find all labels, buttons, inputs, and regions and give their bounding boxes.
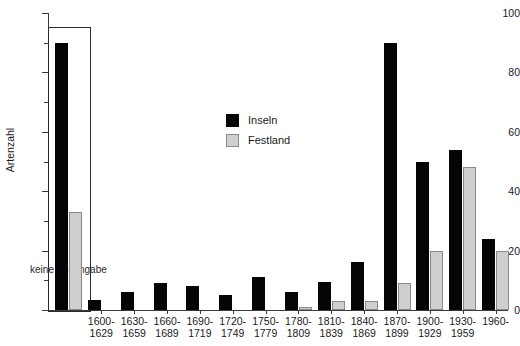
y-axis-label: Artenzahl — [4, 128, 16, 172]
x-tick — [364, 310, 365, 314]
x-axis-line — [48, 310, 508, 311]
bar-festland-11 — [463, 167, 476, 310]
legend: Inseln Festland — [226, 110, 290, 150]
bar-festland-10 — [430, 251, 443, 310]
x-tick — [496, 310, 497, 314]
legend-label-inseln: Inseln — [248, 114, 277, 126]
bar-festland-7 — [332, 301, 345, 310]
bar-chart: Artenzahl 020406080100 keine Zeitangabe … — [0, 0, 520, 346]
x-tick — [134, 310, 135, 314]
bar-inseln-3 — [186, 286, 199, 310]
x-tick-label-line: 1959 — [441, 328, 485, 340]
bar-inseln-12 — [482, 239, 495, 310]
x-tick — [298, 310, 299, 314]
x-tick — [101, 310, 102, 314]
bar-inseln-10 — [416, 162, 429, 311]
legend-item-festland: Festland — [226, 130, 290, 150]
bar-inseln-8 — [351, 262, 364, 310]
x-tick — [430, 310, 431, 314]
x-tick — [167, 310, 168, 314]
bar-inseln-5 — [252, 277, 265, 310]
x-tick — [266, 310, 267, 314]
plot-area — [48, 13, 508, 310]
bar-inseln-6 — [285, 292, 298, 310]
bar-festland-8 — [365, 301, 378, 310]
x-tick-label-line: 1960- — [474, 316, 518, 328]
bar-inseln-0 — [88, 300, 101, 310]
bar-festland-12 — [496, 251, 509, 310]
x-tick — [397, 310, 398, 314]
x-tick-label: 1960- — [474, 316, 518, 328]
legend-label-festland: Festland — [248, 134, 290, 146]
bar-festland-9 — [398, 283, 411, 310]
x-tick — [200, 310, 201, 314]
bar-inseln-4 — [219, 295, 232, 310]
x-tick — [233, 310, 234, 314]
bar-inseln-9 — [384, 43, 397, 310]
legend-item-inseln: Inseln — [226, 110, 290, 130]
bar-inseln-1 — [121, 292, 134, 310]
bar-festland-keine-zeitangabe — [69, 212, 82, 310]
legend-swatch-inseln-icon — [226, 114, 239, 127]
x-tick — [331, 310, 332, 314]
bar-inseln-11 — [449, 150, 462, 310]
x-tick — [463, 310, 464, 314]
bar-festland-6 — [299, 307, 312, 310]
bar-inseln-2 — [154, 283, 167, 310]
legend-swatch-festland-icon — [226, 134, 239, 147]
bar-inseln-keine-zeitangabe — [55, 43, 68, 310]
bar-inseln-7 — [318, 282, 331, 310]
